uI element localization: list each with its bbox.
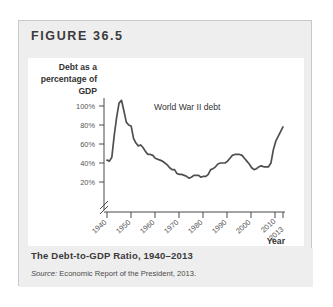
annotation-world-war-ii-debt: World War II debt [154, 102, 221, 112]
x-tick-label-1940: 1940 [90, 218, 108, 236]
x-tick-label-1970: 1970 [162, 218, 180, 236]
source-word: Source: [31, 269, 57, 278]
figure-number-label: FIGURE 36.5 [31, 29, 124, 43]
y-axis-title-line1: Debt as a [59, 62, 97, 72]
x-tick-label-1980: 1980 [186, 218, 204, 236]
x-tick-label-1950: 1950 [114, 218, 132, 236]
y-axis-ticks [99, 106, 104, 182]
y-tick-label-80: 80% [80, 121, 95, 130]
y-tick-label-40: 40% [80, 159, 95, 168]
y-tick-label-100: 100% [76, 102, 95, 111]
x-axis-ticks [107, 212, 283, 218]
figure-source: Source: Economic Report of the President… [31, 269, 196, 278]
source-text: Economic Report of the President, 2013. [57, 269, 196, 278]
y-tick-label-20: 20% [80, 178, 95, 187]
chart-plot-panel: 100% 80% 60% 40% 20% Debt as a percentag… [28, 58, 304, 246]
figure-card: FIGURE 36.5 100% 80% 60% [18, 20, 312, 286]
y-axis-title-line3: GDP [78, 86, 97, 96]
y-tick-label-60: 60% [80, 140, 95, 149]
caption-area: The Debt-to-GDP Ratio, 1940–2013 Source:… [19, 248, 313, 287]
x-tick-label-1960: 1960 [138, 218, 156, 236]
x-tick-label-1990: 1990 [210, 218, 228, 236]
x-axis-title: Year [267, 236, 286, 246]
figure-caption: The Debt-to-GDP Ratio, 1940–2013 [31, 250, 193, 261]
y-axis-title-line2: percentage of [41, 74, 97, 84]
x-tick-label-2000: 2000 [234, 218, 252, 236]
debt-to-gdp-line-chart: 100% 80% 60% 40% 20% Debt as a percentag… [28, 58, 304, 246]
